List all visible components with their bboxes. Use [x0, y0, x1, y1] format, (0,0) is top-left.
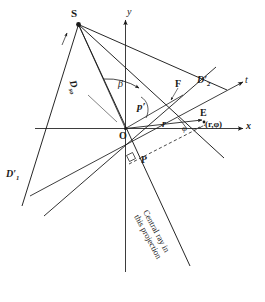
label-t-axis: t	[245, 75, 248, 85]
label-point-E-coords: (r,φ)	[205, 120, 222, 129]
label-detector-left-base: D′	[6, 168, 16, 179]
perpendicular-dashed-group	[127, 125, 206, 164]
point-markers	[76, 22, 205, 130]
label-origin-O: O	[119, 131, 127, 141]
label-point-P: P	[141, 155, 147, 165]
label-detector-right-base: D′	[197, 74, 207, 85]
ray-s-to-d1	[22, 25, 79, 207]
label-detector-left-sub: 1	[16, 174, 19, 181]
right-angle-marker	[127, 153, 136, 162]
label-point-E: E	[200, 108, 207, 118]
label-detector-right-sub: 2	[207, 80, 210, 87]
label-y-axis: y	[127, 7, 131, 17]
diagram-canvas	[0, 0, 265, 302]
caption-strip	[0, 293, 265, 302]
label-radial-r: r	[162, 119, 166, 129]
s-tick-arrow	[62, 33, 67, 45]
label-detector-right: D′2	[197, 75, 210, 88]
ray-s-through-e	[79, 25, 225, 159]
label-angle-phi: φ	[182, 124, 187, 133]
segment-d-so	[79, 25, 126, 129]
label-detector-left: D′1	[6, 169, 19, 182]
label-angle-beta: β	[118, 79, 123, 89]
label-p-prime: p′	[137, 101, 146, 112]
marker-source-S	[76, 22, 81, 27]
label-x-axis: x	[246, 121, 251, 131]
label-point-F: F	[175, 79, 181, 89]
figure-root: S y t x O E (r,φ) F P D′1 D′2 Dso β φ r …	[0, 0, 265, 302]
label-source-S: S	[71, 8, 77, 19]
